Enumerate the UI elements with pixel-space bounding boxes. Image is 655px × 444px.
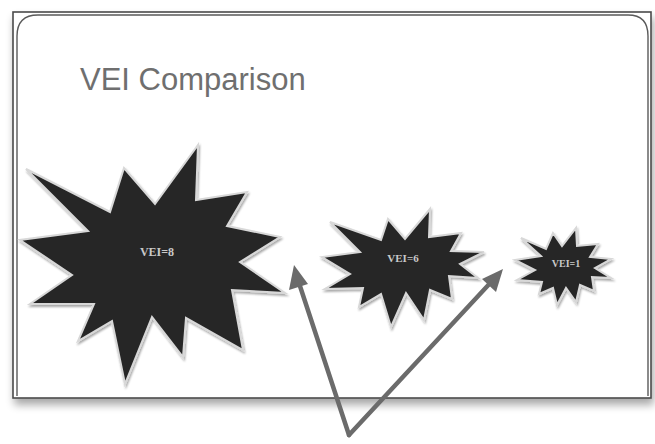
- star-label-vei-1: VEI=1: [552, 258, 580, 269]
- star-label-vei-6: VEI=6: [387, 252, 419, 264]
- star-label-vei-8: VEI=8: [140, 245, 174, 259]
- slide-title: VEI Comparison: [80, 62, 306, 98]
